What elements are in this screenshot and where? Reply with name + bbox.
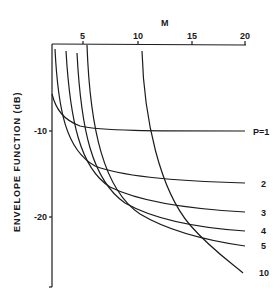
curve-label-p5: 5 [261, 241, 266, 251]
curve-label-p10: 10 [259, 268, 269, 278]
x-tick-label-15: 15 [187, 31, 197, 41]
curve-label-p1: P=1 [253, 127, 269, 137]
y-tick-label-10: -10 [34, 126, 47, 136]
x-axis-line [52, 44, 246, 45]
curve-label-p3: 3 [261, 208, 266, 218]
x-tick-label-10: 10 [133, 31, 143, 41]
x-tick-label-20: 20 [240, 31, 250, 41]
y-axis-title: ENVELOPE FUNCTION (dB) [12, 92, 22, 233]
curve-p4 [77, 53, 245, 231]
curve-label-p4: 4 [261, 226, 266, 236]
x-axis-title: M [161, 18, 169, 28]
curve-label-p2: 2 [261, 179, 266, 189]
envelope-function-chart [0, 0, 280, 302]
x-tick-label-5: 5 [80, 31, 85, 41]
curve-p5 [87, 45, 245, 246]
y-tick-label-20: -20 [34, 212, 47, 222]
curve-p10 [142, 51, 243, 273]
